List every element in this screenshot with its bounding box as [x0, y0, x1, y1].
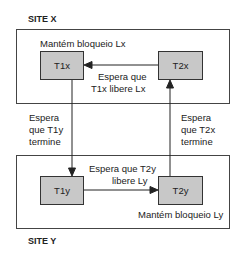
arrows: [0, 0, 243, 259]
arrow-head-t2x: [167, 80, 174, 88]
arrow-head-t1y: [69, 168, 76, 176]
arrow-head-t2y: [150, 187, 158, 194]
arrow-head-t1x: [84, 62, 92, 69]
